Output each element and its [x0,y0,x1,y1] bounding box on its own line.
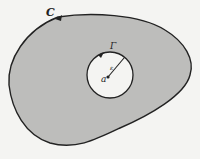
label-epsilon: ε [110,64,113,71]
diagram-canvas: C Γ a ε [0,0,200,159]
label-a: a [101,74,106,84]
label-c: C [46,6,55,19]
label-gamma: Γ [109,41,117,51]
contour-diagram: C Γ a ε [0,0,200,159]
center-point [106,75,109,78]
